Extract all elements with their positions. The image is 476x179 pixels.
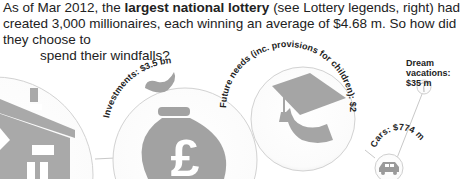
spending-bubbles: £ Investments: $3.5 bn Future needs (inc…	[0, 0, 476, 179]
vacations-label-line1: Dream vacations:	[406, 58, 476, 78]
vacations-label: Dream vacations: $35 m	[406, 58, 476, 88]
connector-line	[95, 158, 115, 159]
housing-bubble	[0, 77, 93, 179]
svg-text:£: £	[171, 129, 200, 179]
cars-label: Cars: $774 m	[368, 122, 426, 149]
vacations-label-line2: $35 m	[406, 78, 476, 88]
cars-bubble: Cars: $774 m	[368, 122, 426, 179]
connector-line	[365, 150, 375, 158]
